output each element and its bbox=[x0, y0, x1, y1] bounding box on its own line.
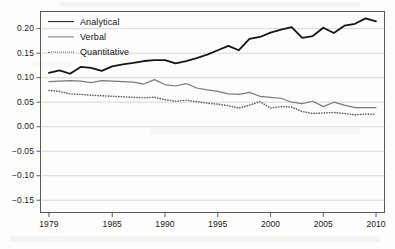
legend-line-swatch-icon bbox=[48, 32, 74, 42]
y-tick-label: −0.15 bbox=[0, 195, 34, 205]
y-tick-label: 0.20 bbox=[0, 23, 34, 33]
legend-item-quantitative[interactable]: Quantitative bbox=[48, 45, 129, 58]
legend-line-swatch-icon bbox=[48, 17, 74, 27]
y-tick-label: 0.10 bbox=[0, 72, 34, 82]
y-tick-label: −0.10 bbox=[0, 170, 34, 180]
legend-item-verbal[interactable]: Verbal bbox=[48, 30, 129, 43]
x-tick-label: 2005 bbox=[303, 219, 343, 229]
chart-figure: 0.200.150.100.050.00−0.05−0.10−0.15 1979… bbox=[0, 0, 395, 249]
legend-label: Quantitative bbox=[80, 47, 129, 57]
y-tick-label: −0.05 bbox=[0, 146, 34, 156]
chart-legend: AnalyticalVerbalQuantitative bbox=[48, 15, 129, 60]
x-tick-label: 1990 bbox=[145, 219, 185, 229]
x-tick-label: 1979 bbox=[29, 219, 69, 229]
x-tick-label: 2010 bbox=[356, 219, 395, 229]
y-tick-label: 0.15 bbox=[0, 48, 34, 58]
y-tick-label: 0.05 bbox=[0, 97, 34, 107]
x-tick-label: 1985 bbox=[92, 219, 132, 229]
legend-item-analytical[interactable]: Analytical bbox=[48, 15, 129, 28]
legend-line-swatch-icon bbox=[48, 47, 74, 57]
legend-label: Verbal bbox=[80, 32, 106, 42]
legend-label: Analytical bbox=[80, 17, 120, 27]
x-tick-label: 1995 bbox=[198, 219, 238, 229]
y-tick-label: 0.00 bbox=[0, 121, 34, 131]
x-tick-label: 2000 bbox=[251, 219, 291, 229]
